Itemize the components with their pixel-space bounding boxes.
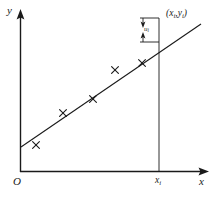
- data-point-marker: [60, 110, 67, 117]
- x-axis-label: x: [199, 176, 204, 187]
- observed-point-label: (xi,yi): [166, 9, 187, 20]
- y-axis: [17, 9, 25, 172]
- residual-label-subscript: i: [148, 28, 149, 33]
- x-tick-label-subscript: i: [159, 179, 161, 186]
- residual-arrow-up: [141, 32, 146, 42]
- residual-label: ui: [144, 26, 149, 33]
- data-point-marker: [112, 67, 119, 74]
- x-axis: [20, 168, 209, 176]
- regression-line: [21, 24, 201, 147]
- x-tick-label-xi: xi: [155, 176, 161, 187]
- point-label-close-paren: ): [184, 8, 187, 18]
- y-axis-label: y: [7, 5, 12, 16]
- data-point-marker: [33, 142, 40, 149]
- figure-canvas: [0, 0, 213, 201]
- origin-label: O: [13, 176, 21, 187]
- regression-residual-figure: y x O xi (xi,yi) ui: [0, 0, 213, 201]
